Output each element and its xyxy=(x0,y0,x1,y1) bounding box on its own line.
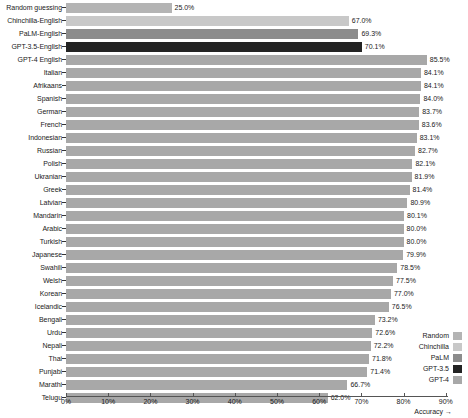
legend-item-label: Chinchilla xyxy=(419,343,449,350)
x-axis-tick xyxy=(446,393,447,397)
x-axis-tick-label: 40% xyxy=(228,398,242,405)
category-label: Polish xyxy=(43,157,62,170)
bar-value-label: 83.6% xyxy=(419,118,442,131)
category-label: Latvian xyxy=(40,196,62,209)
bar-value-label: 80.1% xyxy=(404,209,427,222)
category-label: Urdu xyxy=(47,326,62,339)
category-label: Icelandic xyxy=(35,300,62,313)
bar-value-label: 70.1% xyxy=(362,40,385,53)
bar-value-label: 81.9% xyxy=(412,170,435,183)
bar xyxy=(66,16,349,26)
category-label: Punjabi xyxy=(39,365,62,378)
bar xyxy=(66,224,404,234)
chart-row: GPT-3.5-English70.1% xyxy=(0,40,468,53)
bar-value-label: 84.0% xyxy=(420,92,443,105)
legend-item-label: Random xyxy=(423,332,449,339)
bar xyxy=(66,94,420,104)
legend-item[interactable]: GPT-4 xyxy=(400,374,462,385)
chart-row: Greek81.4% xyxy=(0,183,468,196)
legend-color-swatch xyxy=(453,332,462,340)
legend-item-label: GPT-3.5 xyxy=(423,365,449,372)
category-label: Italian xyxy=(44,66,62,79)
bar xyxy=(66,29,358,39)
bar xyxy=(66,107,419,117)
bar-value-label: 78.5% xyxy=(397,261,420,274)
chart-row: Russian82.7% xyxy=(0,144,468,157)
legend-item-label: GPT-4 xyxy=(429,376,449,383)
bar xyxy=(66,68,421,78)
bar xyxy=(66,302,389,312)
legend-item[interactable]: Chinchilla xyxy=(400,341,462,352)
bar xyxy=(66,276,393,286)
category-label: Welsh xyxy=(43,274,62,287)
chart-row: Ukranian81.9% xyxy=(0,170,468,183)
chart-row: PaLM-English69.3% xyxy=(0,27,468,40)
bar xyxy=(66,81,421,91)
bar xyxy=(66,185,410,195)
bar xyxy=(66,159,412,169)
bar xyxy=(66,315,375,325)
chart-row: French83.6% xyxy=(0,118,468,131)
category-label: Indonesian xyxy=(28,131,62,144)
bar-value-label: 80.9% xyxy=(407,196,430,209)
category-label: Japanese xyxy=(32,248,62,261)
bar-value-label: 84.1% xyxy=(421,79,444,92)
chart-row: Mandarin80.1% xyxy=(0,209,468,222)
accuracy-bar-chart: Random guessing25.0%Chinchilla-English67… xyxy=(0,0,468,418)
bar-value-label: 62.0% xyxy=(328,391,351,404)
bar xyxy=(66,3,172,13)
x-axis-tick-label: 50% xyxy=(270,398,284,405)
bar-value-label: 72.6% xyxy=(372,326,395,339)
bar xyxy=(66,120,419,130)
chart-row: German83.7% xyxy=(0,105,468,118)
x-axis-title: Accuracy → xyxy=(414,408,452,415)
category-label: Korean xyxy=(40,287,62,300)
bar-value-label: 73.2% xyxy=(375,313,398,326)
chart-row: Random guessing25.0% xyxy=(0,1,468,14)
bar-value-label: 77.5% xyxy=(393,274,416,287)
legend-color-swatch xyxy=(453,343,462,351)
x-axis-tick xyxy=(66,393,67,397)
bar-value-label: 77.0% xyxy=(391,287,414,300)
x-axis-tick-label: 30% xyxy=(186,398,200,405)
category-label: Turkish xyxy=(40,235,62,248)
category-label: Ukranian xyxy=(34,170,62,183)
legend-color-swatch xyxy=(453,354,462,362)
x-axis-tick xyxy=(319,393,320,397)
bar xyxy=(66,237,404,247)
chart-row: Turkish80.0% xyxy=(0,235,468,248)
bar-value-label: 69.3% xyxy=(358,27,381,40)
category-label: Russian xyxy=(37,144,62,157)
bar xyxy=(66,341,371,351)
bar xyxy=(66,146,415,156)
category-label: Nepali xyxy=(42,339,62,352)
category-label: Bengali xyxy=(39,313,62,326)
bar xyxy=(66,328,372,338)
chart-row: Punjabi71.4% xyxy=(0,365,468,378)
bar xyxy=(66,250,403,260)
chart-row: Italian84.1% xyxy=(0,66,468,79)
chart-row: Polish82.1% xyxy=(0,157,468,170)
category-label: Mandarin xyxy=(33,209,62,222)
chart-row: Welsh77.5% xyxy=(0,274,468,287)
chart-row: Swahili78.5% xyxy=(0,261,468,274)
legend-color-swatch xyxy=(453,365,462,373)
legend-item[interactable]: GPT-3.5 xyxy=(400,363,462,374)
x-axis-line xyxy=(66,396,448,397)
category-label: Greek xyxy=(43,183,62,196)
bar-value-label: 67.0% xyxy=(349,14,372,27)
x-axis-tick-label: 20% xyxy=(143,398,157,405)
chart-row: GPT-4 English85.5% xyxy=(0,53,468,66)
chart-row: Thai71.8% xyxy=(0,352,468,365)
x-axis-tick xyxy=(108,393,109,397)
legend-item[interactable]: Random xyxy=(400,330,462,341)
x-axis-tick-label: 70% xyxy=(354,398,368,405)
legend: RandomChinchillaPaLMGPT-3.5GPT-4 xyxy=(400,330,462,385)
x-axis-tick xyxy=(150,393,151,397)
x-axis-tick-label: 90% xyxy=(439,398,453,405)
category-label: Thai xyxy=(49,352,62,365)
bar xyxy=(66,133,417,143)
chart-row: Afrikaans84.1% xyxy=(0,79,468,92)
legend-item[interactable]: PaLM xyxy=(400,352,462,363)
bar xyxy=(66,172,412,182)
